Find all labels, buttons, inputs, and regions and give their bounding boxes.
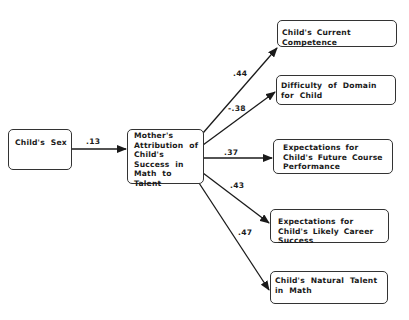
coefficient-sex-attribution: .13	[86, 137, 100, 146]
node-current-competence: Child's Current Competence	[277, 20, 397, 47]
node-label: Expectations for Child's Future Course P…	[283, 143, 388, 172]
node-label: Child's Current Competence	[282, 28, 396, 47]
edge-to-difficulty-domain	[203, 92, 275, 145]
node-label: Difficulty of Domain for Child	[281, 81, 387, 100]
coefficient-difficulty-domain: -.38	[228, 104, 246, 113]
coefficient-current-competence: .44	[233, 69, 247, 78]
node-label: Child's Sex	[15, 138, 71, 148]
node-label: Expectations for Child's Likely Career S…	[278, 217, 384, 246]
coefficient-future-course: .37	[224, 148, 238, 157]
edge-to-current-competence	[203, 48, 277, 133]
node-label: Mother's Attribution of Child's Success …	[134, 131, 201, 189]
node-childs-sex: Child's Sex	[8, 129, 72, 170]
node-difficulty-domain: Difficulty of Domain for Child	[276, 75, 396, 105]
node-natural-talent: Child's Natural Talent in Math	[270, 271, 388, 304]
node-mothers-attribution: Mother's Attribution of Child's Success …	[127, 129, 204, 184]
coefficient-career-success: .43	[230, 181, 244, 190]
node-future-course: Expectations for Child's Future Course P…	[273, 139, 393, 174]
coefficient-natural-talent: .47	[238, 228, 252, 237]
edge-to-natural-talent	[199, 183, 269, 290]
node-label: Child's Natural Talent in Math	[275, 276, 381, 295]
node-career-success: Expectations for Child's Likely Career S…	[270, 209, 389, 243]
